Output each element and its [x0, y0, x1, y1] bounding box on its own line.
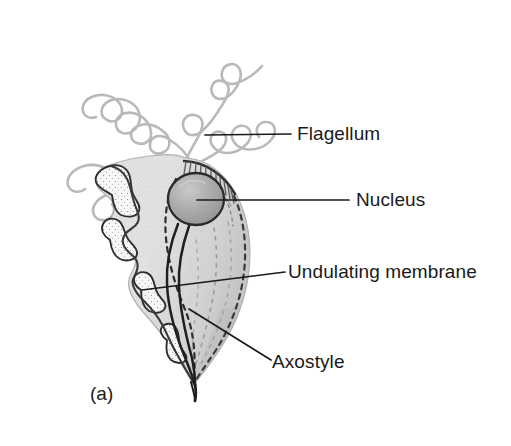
- nucleus-group: [168, 173, 224, 225]
- flagellum-strand-4: [196, 122, 275, 164]
- label-nucleus: Nucleus: [356, 190, 425, 209]
- figure-caption: (a): [90, 384, 113, 403]
- protozoan-diagram: [0, 0, 511, 446]
- label-flagellum: Flagellum: [297, 124, 380, 143]
- label-axostyle: Axostyle: [272, 352, 345, 371]
- leader-line-flagellum: [205, 134, 291, 135]
- figure-container: Flagellum Nucleus Undulating membrane Ax…: [0, 0, 511, 446]
- flagellum-strand-2: [83, 95, 191, 163]
- label-undulating-membrane: Undulating membrane: [288, 262, 477, 281]
